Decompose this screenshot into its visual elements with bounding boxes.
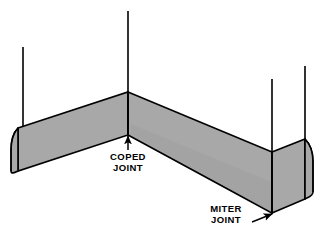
miter-joint-label-line1: MITER xyxy=(210,203,242,214)
baseboard-right-end-cap xyxy=(305,139,313,199)
baseboard-face-return xyxy=(272,139,305,213)
diagram-canvas: COPED JOINT MITER JOINT xyxy=(0,0,329,241)
baseboard-left-end-cap xyxy=(11,128,18,173)
coped-joint-label-line2: JOINT xyxy=(113,162,143,173)
coped-joint-label-line1: COPED xyxy=(110,151,146,162)
miter-joint-label-line2: JOINT xyxy=(211,214,241,225)
baseboard-joint-diagram: COPED JOINT MITER JOINT xyxy=(0,0,329,241)
miter-joint-leader-line xyxy=(252,214,272,222)
